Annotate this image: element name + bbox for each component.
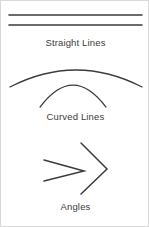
diagram-page: Straight Lines Curved Lines Angles xyxy=(0,0,149,227)
curved-line-inner xyxy=(40,85,106,107)
angle-wide xyxy=(44,160,84,181)
curved-line-outer xyxy=(10,70,142,87)
curved-lines-group xyxy=(10,70,142,107)
angle-narrow xyxy=(81,143,107,194)
section-label-straight-lines: Straight Lines xyxy=(1,37,149,48)
section-label-curved-lines: Curved Lines xyxy=(1,111,149,122)
angles-group xyxy=(44,143,107,194)
section-label-angles: Angles xyxy=(1,201,149,212)
straight-lines-group xyxy=(9,15,142,25)
